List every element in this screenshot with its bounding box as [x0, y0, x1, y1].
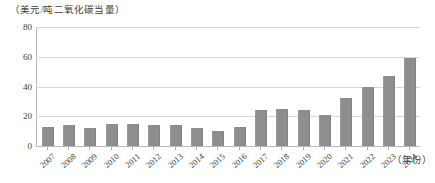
bar-2018: [276, 109, 288, 146]
bar-2011: [127, 124, 139, 146]
bar-2022: [362, 87, 374, 147]
bar-2016: [234, 127, 246, 146]
x-tick-label-2008: 2008: [59, 152, 77, 170]
x-tick-2021: [345, 147, 346, 150]
x-tick-2015: [217, 147, 218, 150]
y-axis-caption: （美元/吨二氧化碳当量）: [10, 2, 125, 16]
x-tick-2010: [111, 147, 112, 150]
bar-2009: [84, 128, 96, 146]
x-tick-label-2020: 2020: [315, 152, 333, 170]
x-tick-2007: [47, 147, 48, 150]
bar-2021: [340, 98, 352, 146]
bar-2019: [298, 110, 310, 146]
x-tick-label-2013: 2013: [166, 152, 184, 170]
x-tick-2011: [132, 147, 133, 150]
x-tick-label-2009: 2009: [81, 152, 99, 170]
x-tick-label-2015: 2015: [209, 152, 227, 170]
bar-2012: [148, 125, 160, 146]
x-axis-labels: 2007200820092010201120122013201420152016…: [36, 147, 420, 183]
x-tick-label-2014: 2014: [187, 152, 205, 170]
x-tick-2024: [409, 147, 410, 150]
bar-2023: [383, 76, 395, 146]
bar-2017: [255, 110, 267, 146]
x-tick-label-2007: 2007: [38, 152, 56, 170]
bar-2008: [63, 125, 75, 146]
x-tick-2008: [68, 147, 69, 150]
x-tick-2018: [281, 147, 282, 150]
bar-2014: [191, 128, 203, 146]
x-tick-label-2012: 2012: [145, 152, 163, 170]
bar-chart: （美元/吨二氧化碳当量） 020406080 20072008200920102…: [0, 0, 435, 183]
x-tick-label-2010: 2010: [102, 152, 120, 170]
bars: [36, 27, 420, 146]
y-tick-label-0: 0: [28, 142, 33, 151]
y-tick-label-40: 40: [23, 82, 32, 91]
x-tick-2013: [175, 147, 176, 150]
x-tick-label-2017: 2017: [251, 152, 269, 170]
bar-2010: [106, 124, 118, 146]
x-tick-2012: [153, 147, 154, 150]
bar-2024: [404, 58, 416, 146]
bar-2015: [212, 131, 224, 146]
x-tick-label-2021: 2021: [337, 152, 355, 170]
x-tick-2014: [196, 147, 197, 150]
y-tick-label-60: 60: [23, 52, 32, 61]
plot-area: 020406080: [36, 27, 420, 146]
x-tick-2023: [388, 147, 389, 150]
x-tick-2022: [367, 147, 368, 150]
x-tick-label-2018: 2018: [273, 152, 291, 170]
x-tick-2016: [239, 147, 240, 150]
x-tick-2009: [89, 147, 90, 150]
x-axis-caption: （年份）: [392, 152, 432, 166]
bar-2020: [319, 115, 331, 146]
x-tick-2020: [324, 147, 325, 150]
x-tick-label-2022: 2022: [358, 152, 376, 170]
x-tick-label-2019: 2019: [294, 152, 312, 170]
x-tick-label-2016: 2016: [230, 152, 248, 170]
x-tick-2017: [260, 147, 261, 150]
x-tick-label-2011: 2011: [124, 152, 142, 169]
x-tick-2019: [303, 147, 304, 150]
bar-2013: [170, 125, 182, 146]
y-tick-label-20: 20: [23, 112, 32, 121]
bar-2007: [42, 127, 54, 146]
y-tick-label-80: 80: [23, 23, 32, 32]
